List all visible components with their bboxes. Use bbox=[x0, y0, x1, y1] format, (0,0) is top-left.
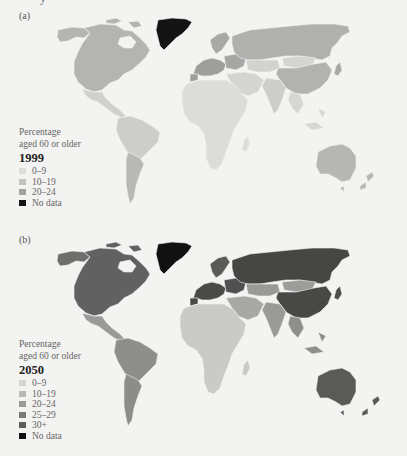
region-southeast-asia bbox=[288, 92, 304, 114]
region-africa bbox=[242, 360, 250, 376]
region-southeast-asia bbox=[318, 332, 326, 342]
legend-swatch bbox=[19, 380, 26, 386]
legend-item-label: No data bbox=[32, 430, 62, 442]
legend-swatch bbox=[19, 168, 26, 174]
panel-label: (b) bbox=[19, 234, 31, 245]
legend-swatch bbox=[19, 391, 26, 397]
region-greenland bbox=[156, 242, 192, 274]
region-africa bbox=[242, 136, 250, 152]
region-north-america-us-canada bbox=[128, 21, 142, 28]
region-africa bbox=[182, 80, 248, 170]
region-north-america-us-canada bbox=[106, 242, 122, 248]
legend-title-line-2: aged 60 or older bbox=[19, 350, 81, 362]
region-southeast-asia bbox=[318, 108, 326, 118]
region-russia bbox=[232, 24, 350, 60]
legend-title-line-1: Percentage bbox=[19, 338, 81, 350]
legend-item: 25–29 bbox=[19, 410, 81, 421]
region-central-asia bbox=[246, 60, 280, 72]
legend-title-line-1: Percentage bbox=[19, 126, 81, 138]
region-australia bbox=[340, 410, 344, 416]
region-scandinavia bbox=[210, 256, 230, 278]
legend-item: No data bbox=[19, 198, 81, 209]
region-mexico-central-america bbox=[82, 313, 126, 342]
region-australia bbox=[340, 186, 344, 192]
legend-item-label: No data bbox=[32, 197, 62, 209]
region-north-america-us-canada bbox=[128, 245, 142, 252]
region-australia bbox=[316, 368, 356, 406]
region-japan bbox=[334, 286, 342, 300]
region-india bbox=[262, 78, 286, 114]
region-mexico-central-america bbox=[82, 89, 126, 118]
region-southern-cone bbox=[124, 374, 142, 426]
legend-swatch bbox=[19, 412, 26, 418]
region-new-zealand bbox=[366, 172, 374, 182]
region-southeast-asia bbox=[288, 316, 304, 338]
region-south-america bbox=[114, 338, 158, 382]
map-panel-1999: (a) Percentage aged 60 or older 1999 0–9… bbox=[0, 0, 407, 228]
legend-year: 2050 bbox=[19, 363, 81, 378]
region-russia bbox=[232, 248, 350, 284]
region-japan bbox=[334, 62, 342, 76]
region-new-zealand bbox=[372, 396, 380, 406]
legend-year: 1999 bbox=[19, 151, 81, 166]
region-new-zealand bbox=[362, 408, 368, 416]
legend-swatch bbox=[19, 179, 26, 185]
region-india bbox=[262, 302, 286, 338]
map-legend: Percentage aged 60 or older 1999 0–9 10–… bbox=[19, 126, 81, 208]
legend-swatch bbox=[19, 401, 26, 407]
region-greenland bbox=[156, 18, 192, 50]
region-australia bbox=[316, 144, 356, 182]
region-scandinavia bbox=[210, 32, 230, 54]
map-legend: Percentage aged 60 or older 2050 0–9 10–… bbox=[19, 338, 81, 441]
legend-swatch bbox=[19, 189, 26, 195]
legend-swatch bbox=[19, 422, 26, 428]
panel-label: (a) bbox=[19, 10, 30, 21]
legend-item: No data bbox=[19, 431, 81, 442]
region-central-asia bbox=[246, 284, 280, 296]
region-southeast-asia bbox=[304, 122, 324, 130]
map-panel-2050: (b) Percentage aged 60 or older 2050 0–9… bbox=[0, 228, 407, 456]
legend-swatch bbox=[19, 200, 26, 206]
region-new-zealand bbox=[360, 182, 366, 190]
region-north-america-us-canada bbox=[106, 18, 122, 24]
region-southeast-asia bbox=[304, 346, 324, 354]
region-africa bbox=[180, 304, 246, 394]
region-south-america bbox=[116, 116, 160, 160]
region-southern-cone bbox=[126, 152, 144, 204]
legend-title-line-2: aged 60 or older bbox=[19, 138, 81, 150]
legend-swatch bbox=[19, 433, 26, 439]
